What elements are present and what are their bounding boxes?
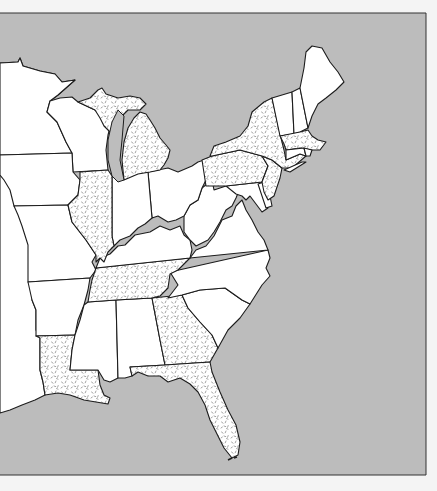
- state-rhode-island: [304, 148, 312, 156]
- map-container: [0, 0, 437, 491]
- state-iowa: [0, 153, 80, 206]
- eastern-us-map: [0, 0, 437, 491]
